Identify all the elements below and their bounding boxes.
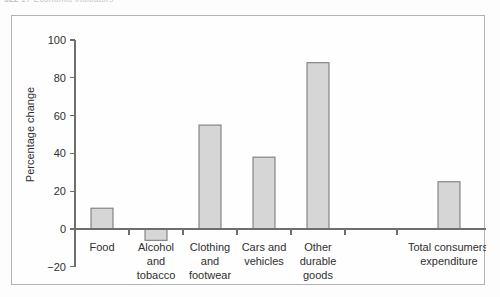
category-label: durable [300, 255, 337, 267]
category-label: Total consumers' [408, 241, 486, 253]
y-tick-label: 40 [54, 147, 66, 159]
bar [253, 157, 275, 229]
running-head: 522 17 Economic indicators [4, 0, 204, 4]
category-label: expenditure [420, 255, 478, 267]
bar [145, 229, 167, 240]
y-tick-label: 80 [54, 72, 66, 84]
y-tick-label: 20 [54, 185, 66, 197]
category-label: and [147, 255, 165, 267]
x-axis [75, 229, 486, 235]
category-label: Clothing [190, 241, 230, 253]
bars-group [91, 63, 460, 241]
running-head-title: 17 Economic indicators [21, 0, 113, 4]
category-label: Cars and [242, 241, 287, 253]
bar [307, 63, 329, 229]
y-tick-label: 60 [54, 110, 66, 122]
category-label: and [201, 255, 219, 267]
category-label: footwear [189, 269, 232, 281]
category-label: Food [89, 241, 114, 253]
category-label: goods [303, 269, 333, 281]
category-label: Other [304, 241, 332, 253]
category-label: vehicles [244, 255, 284, 267]
page-canvas: 522 17 Economic indicators −200204060801… [0, 0, 500, 297]
category-label: Alcohol [138, 241, 174, 253]
running-head-number: 522 [4, 0, 19, 4]
y-axis-title: Percentage change [24, 87, 36, 182]
bar [199, 125, 221, 229]
category-label: tobacco [137, 269, 176, 281]
y-tick-label: 100 [48, 34, 66, 46]
bar-chart: −20020406080100 FoodAlcoholandtobaccoClo… [12, 16, 486, 286]
y-axis: −20020406080100 [47, 34, 75, 273]
y-axis-title-text: Percentage change [24, 87, 36, 182]
y-tick-label: −20 [47, 261, 66, 273]
chart-svg: −20020406080100 FoodAlcoholandtobaccoClo… [12, 16, 486, 286]
y-tick-label: 0 [60, 223, 66, 235]
chart-frame: −20020406080100 FoodAlcoholandtobaccoClo… [11, 15, 485, 285]
category-labels: FoodAlcoholandtobaccoClothingandfootwear… [89, 241, 486, 281]
bar [438, 182, 460, 229]
bar [91, 208, 113, 229]
